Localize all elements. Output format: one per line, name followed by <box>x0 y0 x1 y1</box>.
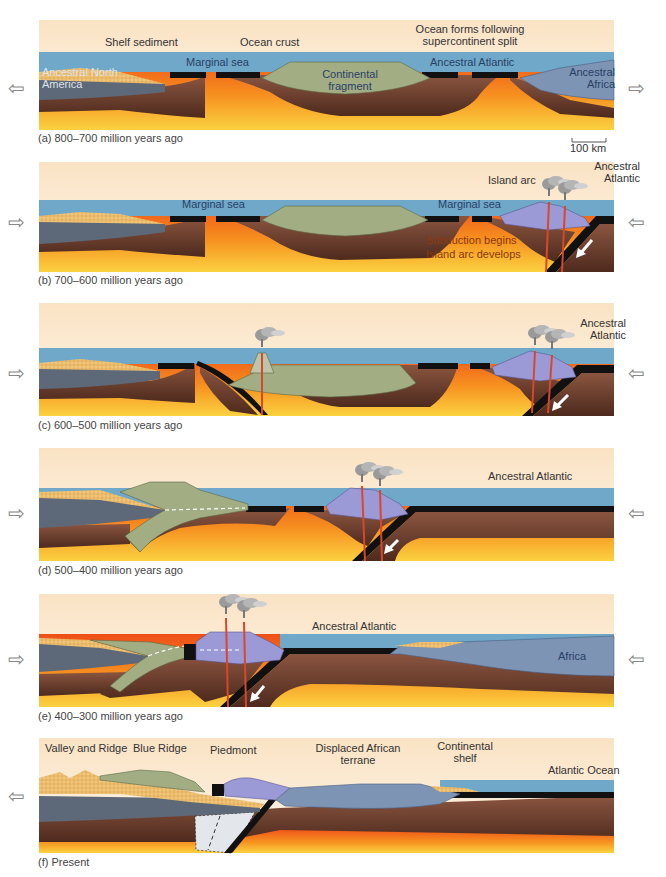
arrow-right-icon: ⇨ <box>8 363 25 383</box>
label-ancestral-atlantic: Ancestral Atlantic <box>312 620 396 632</box>
label-valley-and-ridge: Valley and Ridge <box>45 742 127 754</box>
label-displaced-african-terrane: Displaced African terrane <box>308 742 408 766</box>
arrow-left-icon: ⇦ <box>8 78 25 98</box>
panel-e: Ancestral Atlantic Africa ⇨ ⇦ (e) 400–30… <box>0 594 666 726</box>
label-ancestral-atlantic: Ancestral Atlantic <box>576 317 626 341</box>
label-island-arc: Island arc <box>488 174 536 186</box>
arrow-right-icon: ⇨ <box>8 212 25 232</box>
caption-f: (f) Present <box>38 856 89 868</box>
label-ancestral-north-america: Ancestral North America <box>42 66 122 90</box>
arrow-right-icon: ⇨ <box>628 78 645 98</box>
arrow-left-icon: ⇦ <box>628 503 645 523</box>
label-ancestral-atlantic: Ancestral Atlantic <box>590 160 640 184</box>
panel-a: Shelf sediment Ocean crust Ocean forms f… <box>0 20 666 160</box>
label-ocean-forms: Ocean forms following supercontinent spl… <box>415 23 525 47</box>
label-ancestral-atlantic: Ancestral Atlantic <box>430 56 514 68</box>
cross-section-d <box>0 448 666 580</box>
label-piedmont: Piedmont <box>210 744 256 756</box>
label-marginal-sea: Marginal sea <box>186 56 249 68</box>
scale-bar-label: 100 km <box>570 142 606 154</box>
caption-e: (e) 400–300 million years ago <box>38 710 183 722</box>
arrow-left-icon: ⇦ <box>628 363 645 383</box>
label-blue-ridge: Blue Ridge <box>133 742 187 754</box>
panel-d: Ancestral Atlantic ⇨ ⇦ (d) 500–400 milli… <box>0 448 666 580</box>
caption-c: (c) 600–500 million years ago <box>38 419 182 431</box>
arrow-left-icon: ⇦ <box>628 649 645 669</box>
label-marginal-sea-right: Marginal sea <box>438 198 501 210</box>
label-africa: Africa <box>558 650 586 662</box>
cross-section-b <box>0 162 666 290</box>
label-continental-shelf: Continental shelf <box>435 740 495 764</box>
panel-f: Valley and Ridge Blue Ridge Piedmont Dis… <box>0 738 666 877</box>
label-shelf-sediment: Shelf sediment <box>105 36 178 48</box>
arrow-right-icon: ⇨ <box>8 503 25 523</box>
caption-d: (d) 500–400 million years ago <box>38 564 183 576</box>
arrow-left-icon: ⇦ <box>628 212 645 232</box>
label-marginal-sea-left: Marginal sea <box>182 198 245 210</box>
label-subduction-begins: Subduction begins <box>426 234 517 246</box>
arrow-right-icon: ⇨ <box>8 649 25 669</box>
panel-c: Ancestral Atlantic ⇨ ⇦ (c) 600–500 milli… <box>0 303 666 435</box>
cross-section-c <box>0 303 666 435</box>
label-island-arc-develops: Island arc develops <box>426 248 521 260</box>
arrow-left-icon: ⇦ <box>8 786 25 806</box>
caption-a: (a) 800–700 million years ago <box>38 132 183 144</box>
panel-b: Marginal sea Marginal sea Island arc Anc… <box>0 162 666 290</box>
label-ocean-crust: Ocean crust <box>240 36 299 48</box>
label-ancestral-atlantic: Ancestral Atlantic <box>488 470 572 482</box>
label-ancestral-africa: Ancestral Africa <box>565 66 615 90</box>
label-atlantic-ocean: Atlantic Ocean <box>548 764 620 776</box>
label-continental-fragment: Continental fragment <box>315 68 385 92</box>
caption-b: (b) 700–600 million years ago <box>38 274 183 286</box>
